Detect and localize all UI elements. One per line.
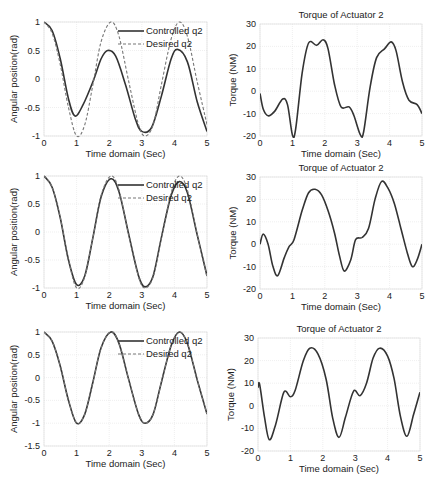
y-axis-label: Torque (NM) <box>225 368 236 421</box>
y-tick-label: -10 <box>243 109 256 119</box>
y-tick-label: 20 <box>244 356 254 366</box>
x-tick-label: 5 <box>204 448 209 458</box>
y-axis-label: Angular position(rad) <box>8 345 19 433</box>
grid <box>260 24 422 136</box>
x-tick-label: 1 <box>74 290 79 300</box>
figure: 012345-1-0.500.51Time domain (Sec)Angula… <box>0 0 433 485</box>
subplot-row1-right: 012345-20-100102030Time domain (Sec)Torq… <box>227 9 425 159</box>
x-tick-label: 1 <box>74 138 79 148</box>
axes-frame <box>260 177 422 289</box>
legend-label: Desired q2 <box>146 38 192 49</box>
y-tick-label: 10 <box>244 378 254 388</box>
subplot-row3-right: 012345-20-100102030Time domain (Sec)Torq… <box>225 323 423 474</box>
chart-title: Torque of Actuator 2 <box>296 323 381 334</box>
legend-label: Desired q2 <box>146 348 192 359</box>
legend: Controlled q2Desired q2 <box>118 25 203 49</box>
x-tick-label: 3 <box>139 290 144 300</box>
series-torque <box>260 181 422 276</box>
chart-title: Torque of Actuator 2 <box>298 162 383 173</box>
legend-label: Desired q2 <box>146 192 192 203</box>
x-axis-label: Time domain (Sec) <box>301 148 381 159</box>
y-tick-label: 30 <box>246 19 256 29</box>
y-axis-label: Angular position(rad) <box>8 35 19 123</box>
y-tick-label: 0 <box>251 86 256 96</box>
x-tick-label: 1 <box>290 138 295 148</box>
x-tick-label: 4 <box>172 290 177 300</box>
x-tick-label: 2 <box>322 138 327 148</box>
y-tick-label: 0 <box>35 373 40 383</box>
y-tick-label: -20 <box>241 446 254 456</box>
x-tick-label: 3 <box>139 448 144 458</box>
subplot-row3-left: 012345-1.5-1-0.500.51Time domain (Sec)An… <box>8 327 210 469</box>
y-tick-label: -1 <box>32 418 40 428</box>
y-tick-label: 30 <box>244 333 254 343</box>
y-tick-label: 1 <box>35 327 40 337</box>
x-tick-label: 2 <box>320 453 325 463</box>
x-tick-label: 5 <box>204 290 209 300</box>
y-tick-label: -20 <box>243 284 256 294</box>
y-tick-label: 0 <box>35 74 40 84</box>
legend-label: Controlled q2 <box>146 179 203 190</box>
y-axis-label: Angular position(rad) <box>8 188 19 276</box>
x-tick-label: 0 <box>257 138 262 148</box>
x-tick-label: 0 <box>41 290 46 300</box>
x-tick-label: 4 <box>172 138 177 148</box>
x-tick-label: 4 <box>385 453 390 463</box>
subplot-row1-left: 012345-1-0.500.51Time domain (Sec)Angula… <box>8 17 210 159</box>
x-tick-label: 3 <box>353 453 358 463</box>
y-tick-label: -0.5 <box>24 395 40 405</box>
x-tick-label: 3 <box>355 291 360 301</box>
y-tick-label: 30 <box>246 172 256 182</box>
x-tick-label: 5 <box>419 138 424 148</box>
x-tick-label: 5 <box>204 138 209 148</box>
axes-frame <box>260 24 422 136</box>
y-tick-label: 20 <box>246 194 256 204</box>
legend-label: Controlled q2 <box>146 335 203 346</box>
x-tick-label: 5 <box>419 291 424 301</box>
x-tick-label: 3 <box>355 138 360 148</box>
x-tick-label: 1 <box>288 453 293 463</box>
y-tick-label: 0.5 <box>27 46 40 56</box>
x-tick-label: 2 <box>107 290 112 300</box>
y-tick-label: 10 <box>246 217 256 227</box>
series-torque <box>260 40 422 138</box>
y-tick-label: -1.5 <box>24 441 40 451</box>
y-axis-label: Torque (NM) <box>227 54 238 107</box>
y-tick-label: -20 <box>243 131 256 141</box>
y-tick-label: 0 <box>249 401 254 411</box>
y-tick-label: 1 <box>35 171 40 181</box>
y-tick-label: 10 <box>246 64 256 74</box>
series-torque <box>258 348 420 440</box>
subplot-row2-left: 012345-1-0.500.51Time domain (Sec)Angula… <box>8 171 210 311</box>
x-tick-label: 2 <box>107 138 112 148</box>
y-tick-label: 0.5 <box>27 199 40 209</box>
x-tick-label: 1 <box>74 448 79 458</box>
x-tick-label: 4 <box>387 138 392 148</box>
x-tick-label: 1 <box>290 291 295 301</box>
y-tick-label: -0.5 <box>24 103 40 113</box>
x-tick-label: 2 <box>107 448 112 458</box>
y-tick-label: -1 <box>32 131 40 141</box>
x-axis-label: Time domain (Sec) <box>86 148 166 159</box>
x-tick-label: 4 <box>172 448 177 458</box>
x-tick-label: 2 <box>322 291 327 301</box>
x-axis-label: Time domain (Sec) <box>86 300 166 311</box>
subplot-row2-right: 012345-20-100102030Time domain (Sec)Torq… <box>227 162 425 312</box>
y-tick-label: 1 <box>35 17 40 27</box>
x-axis-label: Time domain (Sec) <box>301 301 381 312</box>
x-tick-label: 0 <box>41 448 46 458</box>
x-tick-label: 0 <box>255 453 260 463</box>
y-tick-label: -0.5 <box>24 255 40 265</box>
y-axis-label: Torque (NM) <box>227 207 238 260</box>
x-tick-label: 5 <box>417 453 422 463</box>
legend: Controlled q2Desired q2 <box>118 335 203 359</box>
x-tick-label: 0 <box>41 138 46 148</box>
chart-title: Torque of Actuator 2 <box>298 9 383 20</box>
y-tick-label: -10 <box>243 262 256 272</box>
y-tick-label: -1 <box>32 283 40 293</box>
y-tick-label: -10 <box>241 423 254 433</box>
y-tick-label: 0 <box>251 239 256 249</box>
legend: Controlled q2Desired q2 <box>118 179 203 203</box>
x-tick-label: 4 <box>387 291 392 301</box>
y-tick-label: 0.5 <box>27 350 40 360</box>
